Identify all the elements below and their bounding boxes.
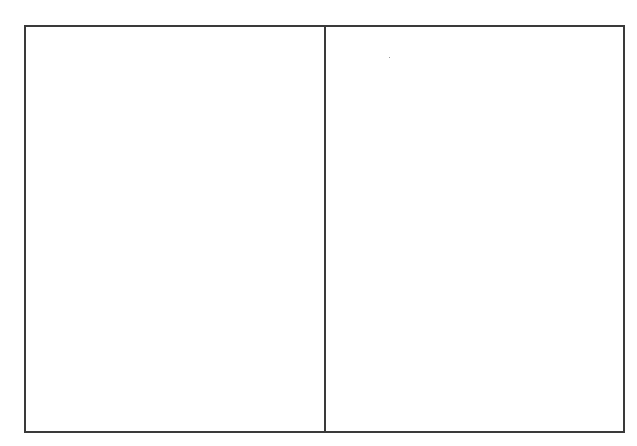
scan-speck [389,57,390,58]
outer-frame [24,25,625,433]
right-panel [326,27,623,431]
left-panel [26,27,324,431]
diagram-canvas [0,0,637,446]
